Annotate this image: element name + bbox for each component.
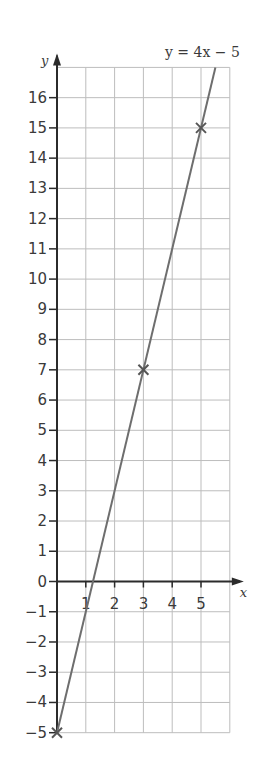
y-tick-label: 9	[37, 300, 47, 318]
grid	[57, 67, 230, 732]
line-chart: 161514131211109876543210−1−2−3−4−512345 …	[0, 0, 265, 761]
y-tick-label: −5	[25, 724, 47, 742]
y-tick-label: 6	[37, 391, 47, 409]
y-tick-label: 12	[28, 210, 47, 228]
y-tick-label: 7	[37, 361, 47, 379]
tick-labels: 161514131211109876543210−1−2−3−4−512345	[25, 89, 206, 742]
y-tick-label: 8	[37, 331, 47, 349]
x-tick-label: 4	[167, 595, 177, 613]
y-tick-label: 11	[28, 240, 47, 258]
y-tick-label: 10	[28, 270, 47, 288]
y-tick-label: −3	[25, 663, 47, 681]
y-tick-label: 1	[37, 542, 47, 560]
y-tick-label: 3	[37, 482, 47, 500]
y-tick-label: 0	[37, 573, 47, 591]
y-tick-label: −4	[25, 693, 47, 711]
x-tick-label: 5	[196, 595, 206, 613]
y-axis-label: y	[40, 53, 49, 68]
y-tick-label: 13	[28, 179, 47, 197]
y-tick-label: 5	[37, 421, 47, 439]
x-tick-label: 2	[110, 595, 120, 613]
y-tick-label: 14	[28, 149, 47, 167]
y-tick-label: 16	[28, 89, 47, 107]
equation-label: y = 4x − 5	[164, 44, 240, 60]
y-tick-label: 2	[37, 512, 47, 530]
y-tick-label: 4	[37, 452, 47, 470]
x-tick-label: 3	[139, 595, 149, 613]
y-tick-label: 15	[28, 119, 47, 137]
y-axis-arrow-icon	[53, 53, 61, 65]
y-tick-label: −2	[25, 633, 47, 651]
y-tick-label: −1	[25, 603, 47, 621]
x-axis-label: x	[240, 585, 248, 600]
